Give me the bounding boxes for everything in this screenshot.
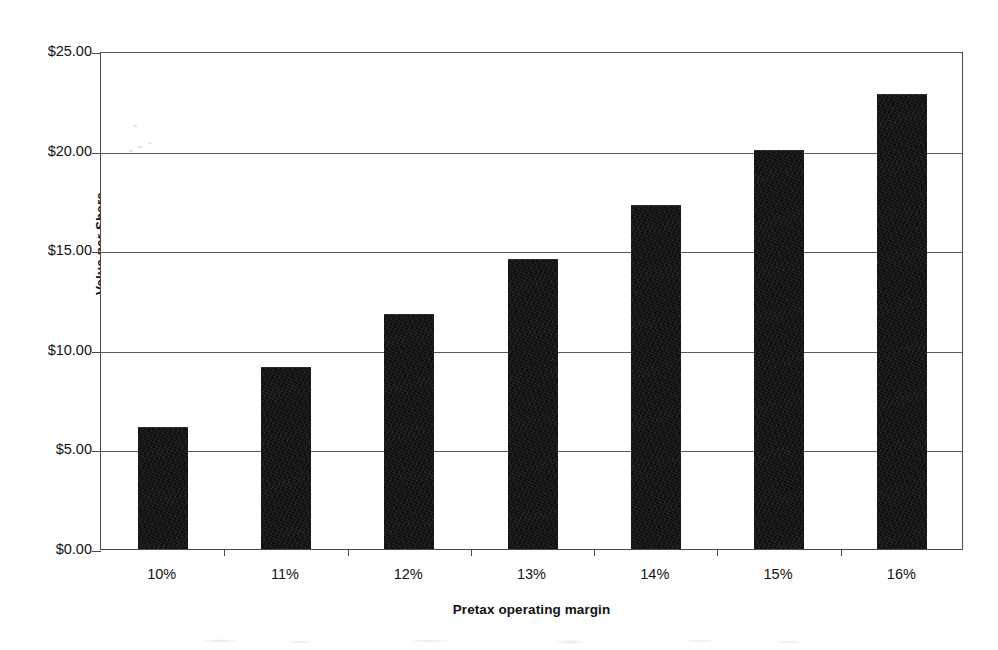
y-tick-label: $10.00 [6, 342, 92, 358]
bar [754, 150, 804, 549]
y-tick-label: $25.00 [6, 43, 92, 59]
x-tick-mark [348, 549, 349, 556]
x-tick-mark [841, 549, 842, 556]
x-tick-mark [717, 549, 718, 556]
x-tick-label: 11% [223, 566, 346, 582]
bar [508, 259, 558, 549]
y-tick-label: $20.00 [6, 143, 92, 159]
bar [631, 205, 681, 549]
y-tick-label: $15.00 [6, 242, 92, 258]
x-tick-label: 13% [470, 566, 593, 582]
x-tick-mark [224, 549, 225, 556]
scan-artifact-band [180, 637, 820, 646]
y-axis-tick-labels: $0.00$5.00$10.00$15.00$20.00$25.00 [0, 0, 92, 650]
x-tick-mark [471, 549, 472, 556]
y-tick-mark [92, 352, 101, 353]
y-tick-mark [92, 252, 101, 253]
x-tick-label: 16% [840, 566, 963, 582]
x-tick-label: 10% [100, 566, 223, 582]
bars-group [101, 53, 962, 549]
y-tick-mark [92, 53, 101, 54]
bar [384, 314, 434, 549]
x-tick-label: 12% [347, 566, 470, 582]
x-axis-title: Pretax operating margin [100, 602, 963, 617]
x-axis-tick-labels: 10%11%12%13%14%15%16% [100, 566, 963, 592]
y-tick-mark [92, 451, 101, 452]
y-tick-mark [92, 551, 101, 552]
x-tick-mark [594, 549, 595, 556]
bar [877, 94, 927, 549]
bar-chart-figure: Value per Share $0.00$5.00$10.00$15.00$2… [0, 0, 998, 650]
bar [261, 367, 311, 549]
x-tick-label: 14% [593, 566, 716, 582]
plot-area [100, 52, 963, 550]
bar [138, 427, 188, 549]
y-tick-label: $5.00 [6, 441, 92, 457]
y-tick-mark [92, 153, 101, 154]
x-tick-label: 15% [716, 566, 839, 582]
y-tick-label: $0.00 [6, 541, 92, 557]
